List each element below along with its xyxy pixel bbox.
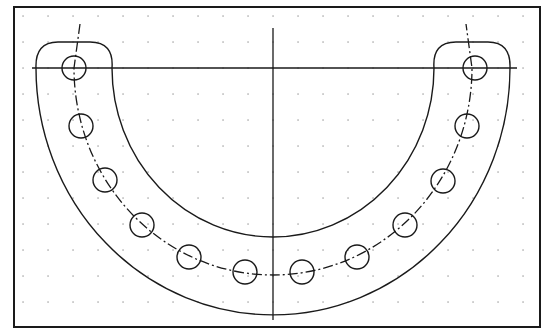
cad-drawing-canvas[interactable] <box>0 0 545 333</box>
drawing-frame <box>14 7 540 327</box>
